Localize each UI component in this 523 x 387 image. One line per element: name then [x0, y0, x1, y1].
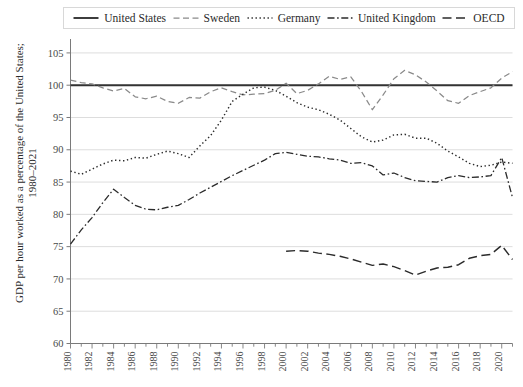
y-tick-label: 100 — [48, 80, 64, 91]
y-tick-label: 70 — [53, 274, 64, 285]
y-tick-label: 105 — [48, 48, 64, 59]
y-tick-label: 85 — [53, 177, 64, 188]
y-axis-ticks: 6570758085909510010560 — [48, 48, 71, 350]
x-tick-label: 2012 — [406, 352, 417, 372]
data-series-group — [71, 70, 513, 275]
y-tick-label: 65 — [53, 306, 64, 317]
x-tick-label: 1990 — [169, 352, 180, 372]
x-tick-label: 1988 — [148, 352, 159, 372]
x-tick-label: 2006 — [342, 352, 353, 372]
x-axis-ticks: 1980198219841986198819901992199419961998… — [62, 344, 513, 372]
x-tick-label: 2016 — [450, 352, 461, 372]
series-line-germany — [71, 87, 513, 174]
x-tick-label: 1998 — [256, 352, 267, 372]
x-tick-label: 1982 — [83, 352, 94, 372]
chart-root: United StatesSwedenGermanyUnited Kingdom… — [0, 0, 523, 387]
x-tick-label: 2002 — [299, 352, 310, 372]
x-tick-label: 1986 — [126, 352, 137, 372]
series-line-sweden — [71, 70, 513, 109]
x-tick-label: 1996 — [234, 352, 245, 372]
x-tick-label: 2018 — [471, 352, 482, 372]
x-tick-label: 2008 — [363, 352, 374, 372]
x-tick-label: 1992 — [191, 352, 202, 372]
x-tick-label: 2004 — [320, 352, 331, 372]
series-line-oecd — [286, 245, 512, 275]
x-tick-label: 1984 — [105, 352, 116, 372]
x-tick-label: 2020 — [493, 351, 504, 371]
x-tick-label: 1980 — [62, 352, 73, 372]
x-tick-label: 1994 — [212, 352, 223, 372]
y-tick-label: 60 — [53, 338, 64, 349]
plot-area: 6570758085909510010560198019821984198619… — [0, 0, 523, 387]
y-tick-label: 80 — [53, 209, 64, 220]
y-tick-label: 90 — [53, 144, 64, 155]
y-tick-label: 75 — [53, 241, 64, 252]
grid-lines — [71, 53, 513, 311]
x-tick-label: 2014 — [428, 352, 439, 372]
y-tick-label: 95 — [53, 112, 64, 123]
x-tick-label: 2010 — [385, 352, 396, 372]
x-tick-label: 2000 — [277, 352, 288, 372]
series-line-united-kingdom — [71, 152, 513, 244]
